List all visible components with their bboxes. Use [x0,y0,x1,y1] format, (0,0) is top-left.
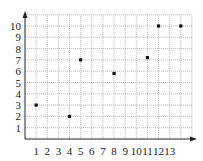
data-point [79,58,82,61]
x-tick-label: 2 [45,145,51,157]
y-tick-label: 8 [16,43,22,55]
y-axis-arrow-icon [23,11,28,18]
data-point [179,24,182,27]
axes [23,11,198,142]
x-tick-label: 5 [78,145,84,157]
data-point [157,24,160,27]
y-tick-label: 3 [16,99,22,111]
data-point [112,72,115,75]
data-point [146,56,149,59]
x-tick-label: 4 [67,145,73,157]
x-tick-labels: 12345678910111213 [33,145,175,157]
y-tick-labels: 12345678910 [10,20,22,134]
x-tick-label: 12 [153,145,164,157]
y-tick-label: 2 [16,110,22,122]
x-tick-label: 10 [131,145,143,157]
x-axis-arrow-icon [190,137,197,142]
x-tick-label: 9 [122,145,128,157]
y-tick-label: 6 [16,65,22,77]
y-tick-label: 4 [16,88,22,100]
data-point [68,115,71,118]
y-tick-label: 10 [10,20,22,32]
y-tick-label: 1 [16,122,22,134]
data-points [35,24,183,118]
x-tick-label: 11 [142,145,153,157]
x-tick-label: 3 [56,145,62,157]
scatter-chart: 12345678910111213 12345678910 [0,0,203,161]
x-tick-label: 6 [89,145,95,157]
data-point [35,104,38,107]
x-tick-label: 8 [111,145,117,157]
x-tick-label: 1 [33,145,39,157]
grid-lines [25,15,192,139]
y-tick-label: 9 [16,31,22,43]
y-tick-label: 7 [16,54,22,66]
y-tick-label: 5 [16,77,22,89]
x-tick-label: 7 [100,145,106,157]
x-tick-label: 13 [164,145,176,157]
